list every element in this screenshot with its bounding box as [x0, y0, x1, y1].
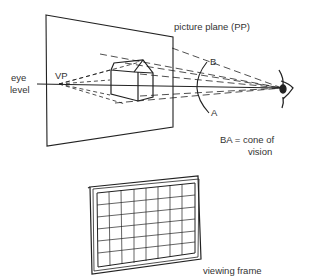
- house-drawing: [111, 60, 153, 101]
- viewing-frame: [88, 176, 201, 274]
- cone-of-vision-arc: [197, 62, 209, 113]
- eye-icon: [279, 70, 293, 108]
- vp-convergence-lines: [59, 62, 140, 104]
- sight-lines: [100, 48, 282, 103]
- point-a-label: A: [211, 107, 217, 118]
- eye-level-label-line2: level: [10, 84, 30, 95]
- point-b-label: B: [210, 56, 216, 67]
- eye-level-label-line1: eye: [11, 72, 26, 83]
- cone-of-vision-label-line1: BA = cone of: [220, 134, 274, 145]
- cone-of-vision-label-line2: vision: [248, 146, 272, 157]
- viewing-frame-label: viewing frame: [203, 265, 262, 276]
- vanishing-point-label: VP: [55, 70, 68, 81]
- picture-plane-label: picture plane (PP): [174, 21, 250, 32]
